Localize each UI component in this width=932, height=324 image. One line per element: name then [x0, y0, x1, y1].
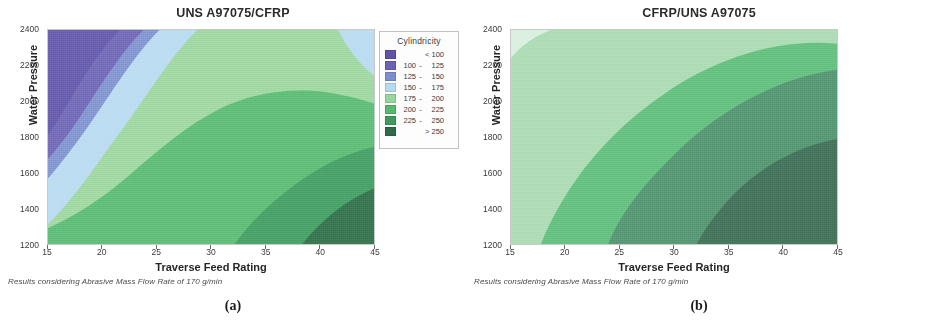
- legend-high: 175: [425, 83, 444, 92]
- subfigure-label-a: (a): [0, 298, 466, 314]
- legend-item: 100 - 125: [385, 60, 453, 70]
- legend-item: 175 - 200: [385, 93, 453, 103]
- legend-swatch-icon: [385, 116, 396, 125]
- x-tick-a-6: 45: [370, 247, 379, 257]
- legend-item: 200 - 225: [385, 104, 453, 114]
- y-tick-b-6: 2400: [483, 24, 502, 34]
- x-tick-a-2: 25: [152, 247, 161, 257]
- legend-high: > 250: [425, 127, 444, 136]
- legend-swatch-icon: [385, 127, 396, 136]
- contour-svg-a: [48, 30, 374, 244]
- chart-note-a: Results considering Abrasive Mass Flow R…: [8, 277, 222, 286]
- legend-high: 125: [425, 61, 444, 70]
- plot-area-b: [510, 29, 838, 245]
- x-tick-a-5: 40: [316, 247, 325, 257]
- x-tick-b-0: 15: [505, 247, 514, 257]
- x-tick-a-0: 15: [42, 247, 51, 257]
- y-tick-a-4: 2000: [20, 96, 39, 106]
- legend-low: 200: [399, 105, 416, 114]
- y-tick-a-5: 2200: [20, 60, 39, 70]
- legend-sep: -: [416, 94, 425, 103]
- legend-item: > 250: [385, 126, 453, 136]
- legend-low: 150: [399, 83, 416, 92]
- legend-item: 125 - 150: [385, 71, 453, 81]
- legend-low: 100: [399, 61, 416, 70]
- legend-a: Cylindricity < 100 100 - 125 125: [379, 31, 459, 149]
- chart-title-a: UNS A97075/CFRP: [0, 6, 466, 20]
- chart-note-b: Results considering Abrasive Mass Flow R…: [474, 277, 688, 286]
- x-tick-b-2: 25: [615, 247, 624, 257]
- x-axis-ticklabels-a: 15 20 25 30 35 40 45: [47, 247, 375, 261]
- y-tick-b-3: 1800: [483, 132, 502, 142]
- contour-canvas-a: [47, 29, 375, 245]
- x-tick-b-4: 35: [724, 247, 733, 257]
- legend-high: 225: [425, 105, 444, 114]
- legend-swatch-icon: [385, 50, 396, 59]
- panel-b: CFRP/UNS A97075 Water Pressure 1200 1400…: [466, 0, 932, 324]
- x-tick-b-3: 30: [669, 247, 678, 257]
- x-axis-title-b: Traverse Feed Rating: [510, 261, 838, 273]
- figure-two-contour-plots: UNS A97075/CFRP Water Pressure 1200 1400…: [0, 0, 932, 324]
- y-tick-b-4: 2000: [483, 96, 502, 106]
- legend-low: 125: [399, 72, 416, 81]
- legend-rows-a: < 100 100 - 125 125 - 150 150 -: [385, 49, 453, 136]
- contour-svg-b: [511, 30, 837, 244]
- subfigure-label-b: (b): [466, 298, 932, 314]
- legend-sep: -: [416, 61, 425, 70]
- x-axis-ticklabels-b: 15 20 25 30 35 40 45: [510, 247, 838, 261]
- y-axis-ticklabels-a: 1200 1400 1600 1800 2000 2200 2400: [0, 29, 44, 245]
- legend-sep: -: [416, 72, 425, 81]
- y-axis-ticklabels-b: 1200 1400 1600 1800 2000 2200 2400: [466, 29, 507, 245]
- y-tick-a-2: 1600: [20, 168, 39, 178]
- legend-low: 175: [399, 94, 416, 103]
- plot-area-a: [47, 29, 375, 245]
- legend-item: 225 - 250: [385, 115, 453, 125]
- y-tick-b-2: 1600: [483, 168, 502, 178]
- x-tick-b-6: 45: [833, 247, 842, 257]
- y-tick-a-0: 1200: [20, 240, 39, 250]
- legend-sep: -: [416, 116, 425, 125]
- legend-swatch-icon: [385, 94, 396, 103]
- y-tick-a-3: 1800: [20, 132, 39, 142]
- contour-canvas-b: [510, 29, 838, 245]
- legend-high: < 100: [425, 50, 444, 59]
- x-tick-a-4: 35: [261, 247, 270, 257]
- x-tick-a-3: 30: [206, 247, 215, 257]
- legend-swatch-icon: [385, 83, 396, 92]
- legend-swatch-icon: [385, 72, 396, 81]
- legend-sep: -: [416, 83, 425, 92]
- legend-sep: -: [416, 105, 425, 114]
- legend-high: 250: [425, 116, 444, 125]
- x-tick-b-1: 20: [560, 247, 569, 257]
- y-tick-b-0: 1200: [483, 240, 502, 250]
- y-tick-b-5: 2200: [483, 60, 502, 70]
- legend-swatch-icon: [385, 61, 396, 70]
- legend-item: < 100: [385, 49, 453, 59]
- legend-title-a: Cylindricity: [385, 36, 453, 46]
- y-tick-a-6: 2400: [20, 24, 39, 34]
- panel-a: UNS A97075/CFRP Water Pressure 1200 1400…: [0, 0, 466, 324]
- legend-high: 150: [425, 72, 444, 81]
- x-tick-b-5: 40: [779, 247, 788, 257]
- chart-title-b: CFRP/UNS A97075: [466, 6, 932, 20]
- x-axis-title-a: Traverse Feed Rating: [47, 261, 375, 273]
- legend-high: 200: [425, 94, 444, 103]
- legend-item: 150 - 175: [385, 82, 453, 92]
- legend-swatch-icon: [385, 105, 396, 114]
- x-tick-a-1: 20: [97, 247, 106, 257]
- legend-low: 225: [399, 116, 416, 125]
- y-tick-b-1: 1400: [483, 204, 502, 214]
- y-tick-a-1: 1400: [20, 204, 39, 214]
